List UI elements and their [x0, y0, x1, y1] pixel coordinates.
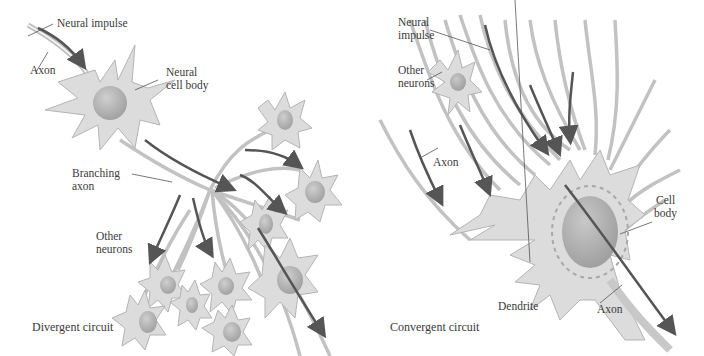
label-other-neurons-2: neurons — [398, 77, 434, 90]
divergent-circuit-panel: Neural impulse Axon Neural cell body Bra… — [0, 0, 370, 356]
label-neural-cell-body-2: cell body — [166, 79, 208, 92]
caption-convergent-circuit: Convergent circuit — [390, 320, 479, 335]
label-axon-bottom: Axon — [597, 303, 623, 316]
label-cell-body-1: Cell — [656, 194, 675, 207]
label-axon-left: Axon — [433, 156, 459, 169]
nucleus — [562, 196, 618, 268]
label-other-neurons-2: neurons — [96, 243, 132, 256]
label-neural-impulse-2: impulse — [398, 29, 434, 42]
label-other-neurons-1: Other — [398, 64, 424, 77]
label-branching-axon-2: axon — [72, 180, 94, 193]
label-cell-body-2: body — [654, 207, 677, 220]
nucleus — [93, 86, 127, 120]
label-neural-impulse-1: Neural — [398, 16, 429, 29]
label-axon: Axon — [30, 64, 56, 77]
label-dendrite: Dendrite — [498, 300, 538, 313]
label-other-neurons-1: Other — [96, 230, 122, 243]
label-neural-cell-body-1: Neural — [166, 66, 197, 79]
caption-divergent-circuit: Divergent circuit — [32, 320, 113, 335]
convergent-circuit-panel: Neural impulse Other neurons Axon Cell b… — [370, 0, 704, 356]
label-branching-axon-1: Branching — [72, 167, 120, 180]
divergent-circuit-illustration — [0, 0, 370, 356]
label-neural-impulse: Neural impulse — [57, 17, 128, 30]
